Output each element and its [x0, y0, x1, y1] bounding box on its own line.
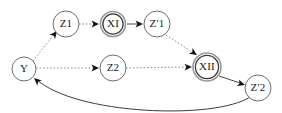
arrowhead-z1-xi: [92, 21, 100, 28]
node-y[interactable]: Y: [12, 57, 36, 81]
node-label-z2: Z2: [107, 61, 120, 73]
edge-y-to-z1: [33, 33, 55, 61]
node-label-zp2: Z'2: [251, 81, 266, 93]
node-label-y: Y: [20, 62, 28, 74]
node-label-zp1: Z'1: [150, 17, 165, 29]
edge-zp1-to-xii: [166, 35, 195, 54]
node-label-xi: XI: [107, 17, 119, 29]
diagram-canvas: YZ1XIZ'1Z2XIIZ'2: [0, 0, 282, 113]
node-z2[interactable]: Z2: [100, 55, 126, 81]
node-xii[interactable]: XII: [193, 53, 221, 81]
edge-z2-to-xii: [126, 67, 190, 68]
node-xi[interactable]: XI: [101, 12, 126, 37]
edge-zp2-to-y: [36, 79, 250, 111]
node-label-xii: XII: [199, 60, 215, 72]
node-zp1[interactable]: Z'1: [144, 11, 170, 37]
node-zp2[interactable]: Z'2: [245, 75, 271, 101]
node-label-z1: Z1: [60, 17, 73, 29]
node-z1[interactable]: Z1: [53, 11, 79, 37]
diagram-svg: YZ1XIZ'1Z2XIIZ'2: [0, 0, 282, 113]
